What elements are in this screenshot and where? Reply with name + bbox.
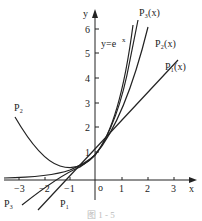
svg-text:P₃: P₃ [4, 198, 13, 209]
x-tick-labels: −3−2−1 o 123 x [14, 182, 194, 194]
p2-curve [15, 27, 148, 168]
svg-text:5: 5 [85, 48, 90, 59]
svg-text:3: 3 [171, 183, 176, 194]
svg-text:1: 1 [119, 183, 124, 194]
svg-text:−3: −3 [14, 183, 25, 194]
svg-text:x: x [189, 183, 194, 194]
svg-text:6: 6 [85, 24, 90, 35]
svg-text:−1: −1 [64, 183, 75, 194]
svg-text:x: x [122, 36, 126, 44]
svg-text:P₂: P₂ [14, 102, 23, 113]
figure-caption: 图 1 - 5 [87, 210, 115, 220]
svg-text:2: 2 [145, 183, 150, 194]
svg-text:P₁(x): P₁(x) [165, 61, 186, 73]
svg-text:y: y [83, 8, 88, 19]
svg-text:P₂(x): P₂(x) [155, 38, 176, 50]
svg-text:y=e: y=e [101, 38, 117, 49]
y-tick-labels: 123 456 y [83, 8, 90, 158]
svg-text:2: 2 [85, 122, 90, 133]
taylor-chart: −3−2−1 o 123 x 123 456 y y=e x P₃(x) P₂(… [0, 0, 202, 221]
svg-text:P₃(x): P₃(x) [139, 7, 160, 19]
y-ticks [95, 29, 99, 152]
p1-curve [38, 60, 178, 210]
svg-text:o: o [98, 182, 103, 193]
svg-text:4: 4 [85, 73, 90, 84]
svg-text:P₁: P₁ [60, 198, 69, 209]
svg-text:3: 3 [85, 98, 90, 109]
y-axis-arrow-icon [92, 9, 98, 18]
